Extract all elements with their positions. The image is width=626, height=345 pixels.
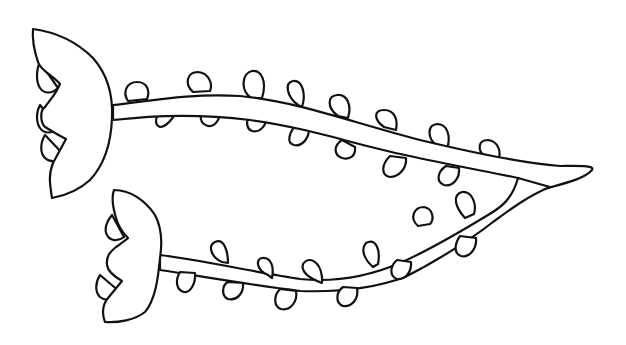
- drawing-canvas: Line drawing of two flowers on long curv…: [0, 0, 626, 345]
- top-flower-icon: [33, 29, 112, 198]
- bottom-stem: [160, 178, 550, 291]
- bottom-flower-icon: [96, 190, 161, 322]
- top-stem: [113, 95, 592, 188]
